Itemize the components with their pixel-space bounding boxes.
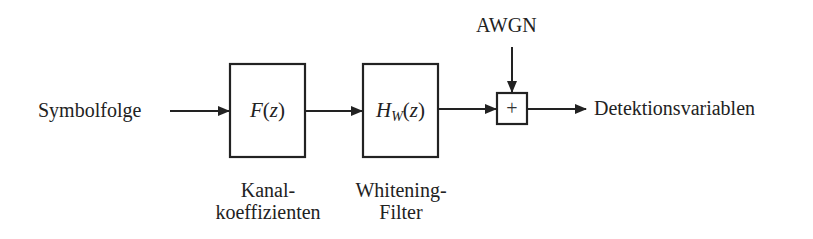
channel-caption-line2: koeffizienten bbox=[207, 201, 329, 223]
output-label: Detektionsvariablen bbox=[594, 97, 755, 119]
whitening-caption: Whitening- Filter bbox=[345, 179, 457, 223]
whitening-caption-line2: Filter bbox=[345, 201, 457, 223]
whitening-transfer-function: HW(z) bbox=[363, 98, 438, 125]
noise-label: AWGN bbox=[476, 14, 537, 36]
whitening-caption-line1: Whitening- bbox=[345, 179, 457, 201]
channel-func-name: F bbox=[250, 98, 263, 122]
channel-caption: Kanal- koeffizienten bbox=[207, 179, 329, 223]
channel-caption-line1: Kanal- bbox=[207, 179, 329, 201]
channel-func-arg: (z) bbox=[263, 98, 285, 122]
whitening-func-name: H bbox=[376, 98, 391, 122]
channel-transfer-function: F(z) bbox=[230, 98, 305, 123]
whitening-func-subscript: W bbox=[391, 109, 403, 124]
input-label: Symbolfolge bbox=[38, 99, 141, 121]
whitening-func-arg: (z) bbox=[403, 98, 425, 122]
adder-symbol: + bbox=[497, 96, 527, 120]
